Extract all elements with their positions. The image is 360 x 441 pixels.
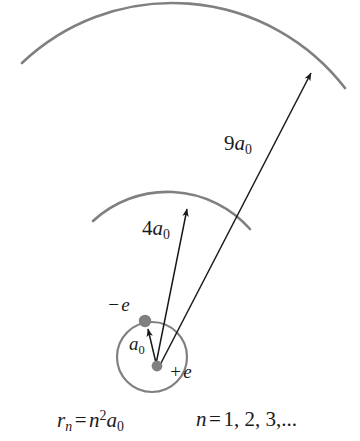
formula-radius-equals: = xyxy=(72,408,89,432)
label-nucleus-sign: + xyxy=(168,361,183,382)
formula-n-values: 1, 2, 3,... xyxy=(223,407,297,431)
label-outer-orbit-radius: 9a0 xyxy=(224,133,252,157)
label-nucleus-charge: +e xyxy=(168,362,192,381)
orbit-arc-n3 xyxy=(22,3,345,88)
label-4a0-symbol: a xyxy=(153,216,164,240)
formula-radius-rhs-factor-subscript: 0 xyxy=(117,419,124,434)
label-9a0-subscript: 0 xyxy=(245,142,252,157)
label-middle-orbit-radius: 4a0 xyxy=(142,218,170,242)
nucleus-dot xyxy=(152,361,163,372)
formula-radius-rhs-symbol: n xyxy=(89,408,100,432)
label-electron-sign: − xyxy=(106,294,121,315)
label-a0-symbol: a xyxy=(129,333,139,354)
formula-quantum-number: n=1, 2, 3,... xyxy=(196,409,297,430)
formula-orbit-radius: rn=n2a0 xyxy=(57,409,124,433)
label-nucleus-symbol: e xyxy=(183,361,191,382)
label-electron-symbol: e xyxy=(121,294,129,315)
label-9a0-coefficient: 9 xyxy=(224,131,235,155)
formula-n-equals: = xyxy=(207,407,224,431)
formula-n-symbol: n xyxy=(196,407,207,431)
label-9a0-symbol: a xyxy=(235,131,246,155)
radius-arrow-9a0 xyxy=(160,73,311,365)
electron-dot xyxy=(139,315,151,327)
orbit-arc-n2 xyxy=(93,192,250,229)
label-4a0-subscript: 0 xyxy=(163,227,170,242)
label-4a0-coefficient: 4 xyxy=(142,216,153,240)
label-electron-charge: −e xyxy=(106,295,130,314)
bohr-model-figure: 9a0 4a0 a0 −e +e rn=n2a0 n=1, 2, 3,... xyxy=(0,0,360,441)
label-a0-subscript: 0 xyxy=(139,343,145,357)
radius-arrow-a0 xyxy=(148,329,156,363)
label-inner-orbit-radius: a0 xyxy=(129,334,145,356)
formula-radius-rhs-factor: a xyxy=(106,408,117,432)
formula-radius-lhs-symbol: r xyxy=(57,408,65,432)
